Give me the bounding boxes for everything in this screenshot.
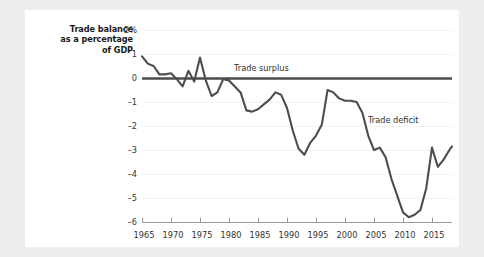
plot-area — [25, 10, 459, 247]
trade-balance-line — [142, 56, 452, 217]
chart-card: Trade balance as a percentage of GDP 2% … — [25, 10, 459, 247]
figure-container: Trade balance as a percentage of GDP 2% … — [0, 0, 484, 257]
gridlines — [142, 31, 452, 199]
x-axis — [143, 218, 453, 223]
